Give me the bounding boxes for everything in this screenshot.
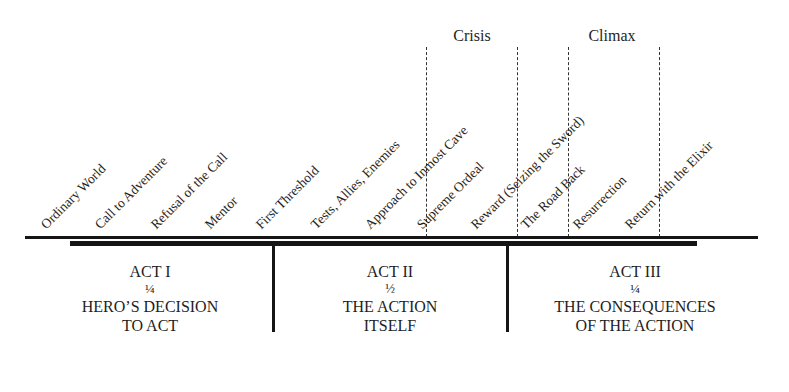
act-3-name: ACT III — [554, 262, 715, 281]
acts-bar — [70, 241, 697, 246]
climax-right-dashed-line — [659, 47, 660, 237]
act-divider-2 — [506, 245, 509, 332]
stage-mentor: Mentor — [202, 194, 240, 232]
act-2-fraction: ½ — [343, 281, 438, 297]
act-2-name: ACT II — [343, 262, 438, 281]
act-2: ACT II ½ THE ACTION ITSELF — [343, 262, 438, 335]
act-1-name: ACT I — [82, 262, 218, 281]
act-1: ACT I ¼ HERO’S DECISION TO ACT — [82, 262, 218, 335]
stage-resurrection: Resurrection — [570, 173, 628, 231]
stage-approach-inmost-cave: Approach to Inmost Cave — [362, 124, 470, 232]
stage-return-with-elixir: Return with the Elixir — [622, 138, 715, 231]
act-1-fraction: ¼ — [82, 281, 218, 297]
act-divider-1 — [272, 245, 275, 332]
act-1-line1: HERO’S DECISION — [82, 297, 218, 316]
act-3-line2: OF THE ACTION — [554, 316, 715, 335]
timeline-line — [25, 236, 758, 239]
peak-label-climax: Climax — [588, 27, 635, 45]
act-1-line2: TO ACT — [82, 316, 218, 335]
stage-tests-allies-enemies: Tests, Allies, Enemies — [308, 138, 402, 232]
peak-label-crisis: Crisis — [453, 27, 490, 45]
act-2-line2: ITSELF — [343, 316, 438, 335]
act-2-line1: THE ACTION — [343, 297, 438, 316]
act-3-line1: THE CONSEQUENCES — [554, 297, 715, 316]
act-3: ACT III ¼ THE CONSEQUENCES OF THE ACTION — [554, 262, 715, 335]
crisis-right-dashed-line — [517, 47, 518, 237]
act-3-fraction: ¼ — [554, 281, 715, 297]
